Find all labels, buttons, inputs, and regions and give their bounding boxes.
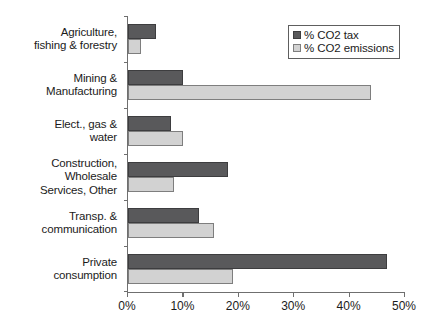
- bar-co2-emissions-private-consumption: [128, 269, 233, 284]
- bar-co2-tax-private-consumption: [128, 254, 387, 269]
- legend-label-co2-emissions: % CO2 emissions: [304, 42, 394, 54]
- bar-group-private-consumption: [128, 246, 405, 292]
- light-square-icon: [293, 44, 301, 52]
- bar-group-mining-manufacturing: [128, 62, 405, 108]
- x-axis-label-0pct: 0%: [118, 298, 135, 314]
- x-axis-label-50pct: 50%: [392, 298, 416, 314]
- bar-group-transp-communication: [128, 200, 405, 246]
- x-axis-tick-30pct: [293, 292, 294, 297]
- x-axis-tick-labels: 0%10%20%30%40%50%: [127, 298, 405, 318]
- legend-label-co2-tax: % CO2 tax: [304, 29, 359, 41]
- bar-co2-tax-construction-wholesale-services-other: [128, 162, 228, 177]
- dark-square-icon: [293, 31, 301, 39]
- bar-co2-tax-agriculture-fishing-forestry: [128, 24, 156, 39]
- x-axis-label-30pct: 30%: [281, 298, 305, 314]
- y-axis-label-transp-communication: Transp. & communication: [0, 200, 122, 246]
- x-axis-label-40pct: 40%: [337, 298, 361, 314]
- bar-group-elect-gas-water: [128, 108, 405, 154]
- x-axis-tick-10pct: [182, 292, 183, 297]
- y-axis-label-mining-manufacturing: Mining & Manufacturing: [0, 62, 122, 108]
- x-axis-tick-50pct: [404, 292, 405, 297]
- y-axis-tick: [124, 246, 128, 247]
- y-axis-tick: [124, 200, 128, 201]
- y-axis-tick: [124, 108, 128, 109]
- x-axis-tick-0pct: [127, 292, 128, 297]
- bar-group-construction-wholesale-services-other: [128, 154, 405, 200]
- bar-co2-tax-elect-gas-water: [128, 116, 171, 131]
- y-axis-tick: [124, 154, 128, 155]
- bar-co2-emissions-elect-gas-water: [128, 131, 183, 146]
- bar-co2-tax-transp-communication: [128, 208, 199, 223]
- x-axis-tick-20pct: [238, 292, 239, 297]
- y-axis-label-agriculture: Agriculture, fishing & forestry: [0, 16, 122, 62]
- y-axis-label-private-consumption: Private consumption: [0, 246, 122, 292]
- y-axis-label-elect-gas-water: Elect., gas & water: [0, 108, 122, 154]
- bar-co2-tax-mining-manufacturing: [128, 70, 183, 85]
- bar-co2-emissions-construction-wholesale-services-other: [128, 177, 174, 192]
- bar-co2-emissions-agriculture-fishing-forestry: [128, 39, 141, 54]
- y-axis-category-labels: Agriculture, fishing & forestry Mining &…: [0, 16, 122, 292]
- x-axis-label-20pct: 20%: [226, 298, 250, 314]
- bar-co2-emissions-mining-manufacturing: [128, 85, 371, 100]
- y-axis-tick: [124, 62, 128, 63]
- legend-item-co2-emissions: % CO2 emissions: [293, 42, 394, 54]
- bar-co2-emissions-transp-communication: [128, 223, 214, 238]
- x-axis-tick-40pct: [349, 292, 350, 297]
- x-axis-label-10pct: 10%: [170, 298, 194, 314]
- legend: % CO2 tax % CO2 emissions: [288, 25, 400, 59]
- bar-chart: Agriculture, fishing & forestry Mining &…: [0, 0, 431, 327]
- y-axis-tick: [124, 16, 128, 17]
- legend-item-co2-tax: % CO2 tax: [293, 29, 394, 41]
- y-axis-label-construction-wholesale: Construction, Wholesale Services, Other: [0, 154, 122, 200]
